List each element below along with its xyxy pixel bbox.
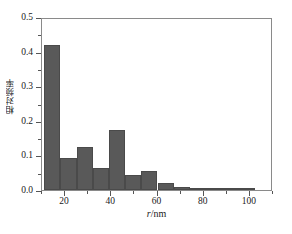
histogram-bar xyxy=(141,171,157,190)
histogram-bar xyxy=(222,188,238,190)
x-tick-label: 20 xyxy=(59,197,69,207)
histogram-bar xyxy=(125,175,141,190)
histogram-bar xyxy=(60,158,76,190)
x-tick-label: 40 xyxy=(106,197,116,207)
y-axis: 0.00.10.20.30.40.5 xyxy=(0,0,41,191)
histogram-bar xyxy=(109,130,125,190)
x-tick-label: 60 xyxy=(152,197,162,207)
histogram-bar xyxy=(44,45,60,190)
x-tick-minor xyxy=(226,191,227,194)
histogram-bar xyxy=(158,183,174,190)
plot-area xyxy=(42,19,271,190)
y-tick-label: 0.0 xyxy=(21,186,33,196)
histogram-bar xyxy=(190,188,206,190)
plot-frame xyxy=(41,18,272,191)
y-tick-label: 0.3 xyxy=(21,82,33,92)
histogram-bar xyxy=(174,187,190,190)
x-tick-label: 80 xyxy=(198,197,208,207)
x-tick-label: 100 xyxy=(242,197,256,207)
x-tick-minor xyxy=(41,191,42,194)
y-tick-label: 0.1 xyxy=(21,152,33,162)
x-axis-title: r/nm xyxy=(41,208,272,219)
x-tick-minor xyxy=(272,191,273,194)
histogram-bar xyxy=(93,168,109,190)
histogram-bar xyxy=(77,147,93,190)
y-tick-label: 0.4 xyxy=(21,48,33,58)
x-tick-minor xyxy=(133,191,134,194)
y-tick-label: 0.2 xyxy=(21,117,33,127)
y-tick-label: 0.5 xyxy=(21,13,33,23)
x-tick-minor xyxy=(180,191,181,194)
histogram-bar xyxy=(206,188,222,190)
x-axis-title-unit: /nm xyxy=(151,208,167,219)
histogram-figure: 相对频率 0.00.10.20.30.40.5 20406080100 r/nm xyxy=(0,0,292,234)
x-tick-minor xyxy=(87,191,88,194)
histogram-bar xyxy=(238,188,254,190)
